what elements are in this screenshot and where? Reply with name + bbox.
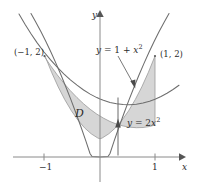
plot-canvas <box>0 0 198 192</box>
label-region-d: D <box>75 108 84 119</box>
label-curve-lower-exponent: 2 <box>156 116 160 124</box>
label-curve-upper-eq: = 1 + <box>101 45 133 55</box>
label-intersection-point-left: (−1, 2) <box>14 48 44 57</box>
label-curve-upper: y = 1 + x2 <box>96 44 143 55</box>
label-curve-lower-eq: = 2 <box>132 118 151 128</box>
label-curve-lower: y = 2x2 <box>127 117 160 128</box>
intersection-dot-right <box>154 55 156 57</box>
x-axis-arrowhead <box>179 153 186 161</box>
label-intersection-point-right: (1, 2) <box>160 50 183 59</box>
curve-upper-leader-line <box>118 56 134 84</box>
label-axis-y: y <box>92 11 97 20</box>
label-tick-neg1: −1 <box>39 163 52 172</box>
curve-upper-leader-arrowhead <box>130 80 135 89</box>
label-axis-x: x <box>182 163 187 172</box>
label-tick-pos1: 1 <box>152 163 158 172</box>
parabola-region-figure: (−1, 2) (1, 2) y = 1 + x2 y = 2x2 D y x … <box>0 0 198 192</box>
label-curve-upper-exponent: 2 <box>138 43 142 51</box>
y-axis-arrowhead <box>96 10 103 17</box>
